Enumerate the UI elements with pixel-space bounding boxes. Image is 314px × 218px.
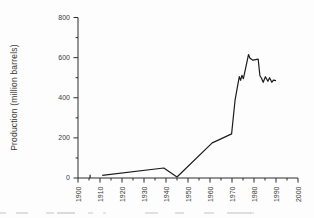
data-line-production xyxy=(102,55,276,177)
x-tick-label: 1960 xyxy=(207,186,214,202)
caption-remnant-mark xyxy=(175,212,184,215)
caption-remnant-mark xyxy=(103,212,106,215)
y-tick-label: 200 xyxy=(58,134,70,141)
caption-remnant-mark xyxy=(204,212,214,215)
x-tick-label: 1990 xyxy=(273,186,280,202)
x-tick-label: 1920 xyxy=(119,186,126,202)
y-tick-label: 600 xyxy=(58,54,70,61)
y-axis-title: Production (million barrels) xyxy=(9,13,22,183)
x-tick-label: 1910 xyxy=(97,186,104,202)
x-tick-label: 1980 xyxy=(251,186,258,202)
caption-remnant-mark xyxy=(250,212,254,215)
production-line-chart: 0200400600800190019101920193019401950196… xyxy=(0,0,314,218)
x-tick-label: 1900 xyxy=(75,186,82,202)
y-tick-label: 800 xyxy=(58,14,70,21)
caption-remnant-mark xyxy=(0,212,6,215)
x-tick-label: 1950 xyxy=(185,186,192,202)
y-tick-label: 400 xyxy=(58,94,70,101)
y-tick-label: 0 xyxy=(66,174,70,181)
x-tick-label: 1930 xyxy=(141,186,148,202)
caption-remnant-mark xyxy=(88,212,93,215)
x-tick-label: 1970 xyxy=(229,186,236,202)
x-tick-label: 2000 xyxy=(295,186,302,202)
figure: Production (million barrels) 02004006008… xyxy=(0,0,314,218)
caption-remnant-mark xyxy=(227,212,251,215)
caption-remnant-mark xyxy=(16,212,28,215)
caption-remnant-mark xyxy=(57,212,75,215)
x-tick-label: 1940 xyxy=(163,186,170,202)
caption-remnant-mark xyxy=(145,212,158,215)
caption-remnant-mark xyxy=(46,212,54,215)
